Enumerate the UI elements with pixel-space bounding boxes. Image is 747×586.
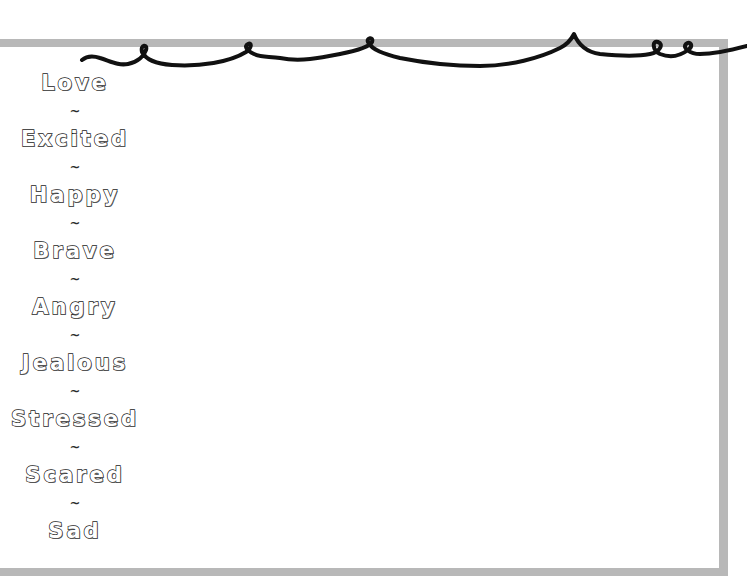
tilde-separator: ~ <box>70 378 81 404</box>
frame-bottom-border <box>0 568 728 576</box>
emotion-word-list: Love ~ Excited ~ Happy ~ Brave ~ Angry ~… <box>0 68 150 546</box>
tilde-separator: ~ <box>70 322 81 348</box>
emotion-word-sad: Sad <box>48 516 101 546</box>
tilde-separator: ~ <box>70 434 81 460</box>
emotion-word-happy: Happy <box>30 180 121 210</box>
tilde-separator: ~ <box>70 490 81 516</box>
tilde-separator: ~ <box>70 154 81 180</box>
emotion-word-love: Love <box>41 68 109 98</box>
tilde-separator: ~ <box>70 266 81 292</box>
emotion-word-angry: Angry <box>32 292 117 322</box>
tilde-separator: ~ <box>70 210 81 236</box>
emotion-word-stressed: Stressed <box>11 404 139 434</box>
frame-top-border <box>0 39 728 47</box>
emotion-word-scared: Scared <box>25 460 124 490</box>
tilde-separator: ~ <box>70 98 81 124</box>
emotion-word-brave: Brave <box>33 236 116 266</box>
frame-right-border <box>719 39 728 576</box>
emotion-word-jealous: Jealous <box>22 348 128 378</box>
emotion-word-excited: Excited <box>21 124 129 154</box>
